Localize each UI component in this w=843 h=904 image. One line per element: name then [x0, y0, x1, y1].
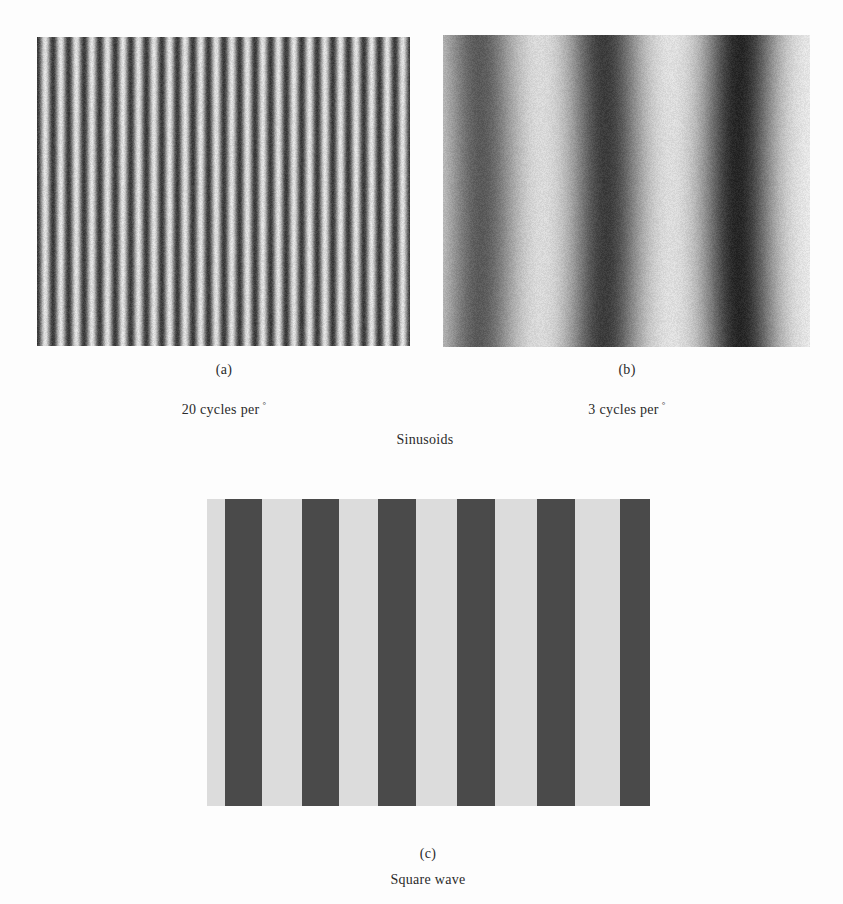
- panel-c-caption: Square wave: [328, 872, 528, 888]
- sinusoid-grating-20cpd: [37, 37, 410, 346]
- square-wave-bar: [457, 499, 495, 806]
- degree-symbol: °: [262, 400, 266, 410]
- panel-a-caption: 20 cycles per°: [124, 397, 324, 418]
- panel-b-label: (b): [527, 362, 727, 378]
- square-wave-bar: [225, 499, 262, 806]
- panel-c-label: (c): [328, 846, 528, 862]
- grating-image: [443, 35, 810, 347]
- degree-symbol: °: [662, 400, 666, 410]
- panel-a-label: (a): [124, 362, 324, 378]
- panel-a-frequency: 20 cycles per: [182, 402, 260, 417]
- square-wave-bar: [378, 499, 416, 806]
- grating-image: [37, 37, 410, 346]
- square-wave-bar: [302, 499, 339, 806]
- sinusoids-group-caption: Sinusoids: [325, 432, 525, 448]
- square-wave-bar: [537, 499, 575, 806]
- panel-b-frequency: 3 cycles per: [588, 402, 658, 417]
- panel-b-caption: 3 cycles per°: [527, 397, 727, 418]
- sinusoid-grating-3cpd: [443, 35, 810, 347]
- square-wave-grating: [207, 499, 650, 806]
- square-wave-bar: [620, 499, 650, 806]
